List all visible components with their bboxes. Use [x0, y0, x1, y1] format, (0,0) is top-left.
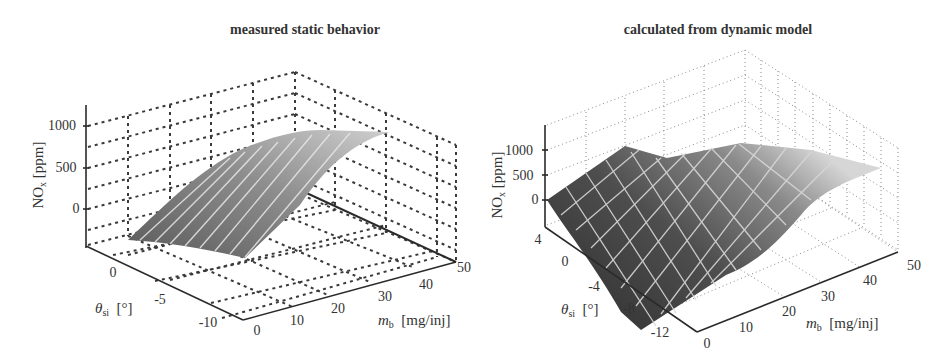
- y-axis-label: θsi [°]: [95, 300, 133, 317]
- y-tick: -10: [199, 315, 218, 331]
- x-tick: 30: [821, 289, 835, 305]
- z-tick: 1000: [48, 118, 76, 134]
- z-tick: 0: [73, 201, 80, 217]
- x-tick: 10: [290, 313, 304, 329]
- y-tick: 0: [110, 265, 117, 281]
- z-axis-label: NOx [ppm]: [489, 151, 506, 218]
- chart-dynamic-model: calculated from dynamic model 1000 500 0…: [471, 0, 942, 357]
- y-tick: -5: [154, 292, 166, 308]
- y-tick: -4: [588, 279, 600, 295]
- x-tick: 40: [419, 277, 433, 293]
- x-tick: 0: [254, 323, 261, 339]
- x-tick: 40: [863, 273, 877, 289]
- x-tick: 30: [378, 289, 392, 305]
- floor-edge-line: [300, 190, 456, 262]
- z-tick: 1000: [505, 143, 533, 159]
- chart-title: calculated from dynamic model: [624, 22, 812, 38]
- y-axis-label: θsi [°]: [561, 301, 599, 318]
- surface-plot-right: [471, 0, 942, 357]
- surface-plot-left: [0, 0, 471, 357]
- x-tick: 50: [907, 258, 921, 274]
- x-tick: 10: [739, 320, 753, 336]
- y-tick: 4: [535, 232, 542, 248]
- x-axis-label: mb [mg/inj]: [806, 315, 879, 332]
- z-tick: 500: [56, 160, 77, 176]
- y-tick: -8: [623, 301, 635, 317]
- chart-title: measured static behavior: [230, 22, 380, 38]
- z-tick: 0: [532, 192, 539, 208]
- z-axis-label: NOx [ppm]: [30, 141, 47, 208]
- z-tick: 500: [513, 168, 534, 184]
- x-tick: 0: [704, 336, 711, 352]
- y-tick: -12: [651, 325, 670, 341]
- x-tick: 50: [457, 260, 471, 276]
- y-tick: 0: [562, 254, 569, 270]
- x-tick: 20: [782, 304, 796, 320]
- chart-measured-static: measured static behavior 1000 500 0 NOx …: [0, 0, 471, 357]
- x-axis-label: mb [mg/inj]: [378, 312, 451, 329]
- x-tick: 20: [331, 301, 345, 317]
